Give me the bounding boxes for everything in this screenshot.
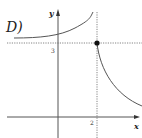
y-tick-label: 3 [51, 47, 55, 54]
y-axis-arrow-icon [56, 9, 60, 16]
x-axis-label: x [134, 121, 139, 131]
panel-label: D) [6, 20, 23, 34]
filled-point [94, 40, 99, 45]
curve-right-branch [97, 43, 142, 106]
x-tick-label: 2 [90, 119, 94, 126]
y-axis-label: y [49, 8, 54, 18]
x-axis-arrow-icon [134, 115, 140, 119]
